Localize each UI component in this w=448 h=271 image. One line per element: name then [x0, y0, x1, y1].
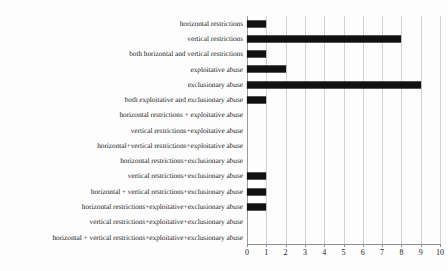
x-tick-6 [363, 244, 364, 247]
x-tick-4 [324, 244, 325, 247]
x-tick-label: 5 [342, 248, 346, 257]
x-tick-10 [440, 244, 441, 247]
category-label: vertical restrictions+exploitative abuse [0, 127, 247, 135]
category-label: vertical restrictions+exclusionary abuse [0, 172, 247, 180]
category-label: both exploitative and exclusionary abuse [0, 96, 247, 104]
category-label: horizontal + vertical restrictions+exclu… [0, 188, 247, 196]
x-tick-label: 4 [322, 248, 326, 257]
category-label: horizontal+vertical restrictions+exploit… [0, 142, 247, 150]
horizontal-bar-chart: horizontal restrictionsvertical restrict… [0, 0, 448, 271]
x-tick-label: 10 [436, 248, 444, 257]
x-tick-3 [305, 244, 306, 247]
x-tick-label: 7 [380, 248, 384, 257]
x-tick-0 [247, 244, 248, 247]
x-tick-5 [344, 244, 345, 247]
x-tick-label: 8 [399, 248, 403, 257]
category-label: horizontal restrictions+exploitative+exc… [0, 203, 247, 211]
category-label: exploitative abuse [0, 66, 247, 74]
x-tick-label: 0 [245, 248, 249, 257]
x-tick-9 [421, 244, 422, 247]
category-label: horizontal + vertical restrictions+explo… [0, 234, 247, 242]
x-axis-ticks: 012345678910 [247, 0, 441, 271]
category-label: horizontal restrictions [0, 20, 247, 28]
x-tick-label: 1 [264, 248, 268, 257]
category-label: exclusionary abuse [0, 81, 247, 89]
category-label: vertical restrictions+exploitative+exclu… [0, 218, 247, 226]
x-tick-8 [401, 244, 402, 247]
x-tick-1 [266, 244, 267, 247]
category-label: both horizontal and vertical restriction… [0, 50, 247, 58]
x-tick-7 [382, 244, 383, 247]
x-tick-label: 6 [361, 248, 365, 257]
category-label: horizontal restrictions + exploitative a… [0, 111, 247, 119]
x-tick-label: 3 [303, 248, 307, 257]
x-tick-label: 2 [284, 248, 288, 257]
category-label: horizontal restrictions+exclusionary abu… [0, 157, 247, 165]
x-tick-2 [286, 244, 287, 247]
category-label: vertical restrictions [0, 35, 247, 43]
x-tick-label: 9 [419, 248, 423, 257]
